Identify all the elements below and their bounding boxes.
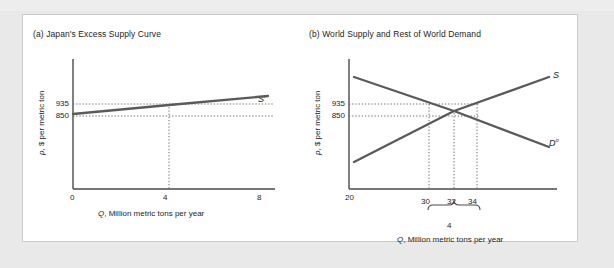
top-strip [0, 0, 614, 11]
panel-a-supply-curve [73, 96, 268, 114]
panel-a-plot [23, 15, 301, 243]
panel-b-brace [428, 200, 480, 210]
panel-world-supply-demand: (b) World Supply and Rest of World Deman… [301, 15, 579, 241]
figure-card: (a) Japan's Excess Supply Curve p, $ per… [22, 14, 578, 242]
panel-b-plot [301, 15, 579, 243]
panel-b-supply-curve [354, 77, 549, 162]
panel-japans-excess-supply: (a) Japan's Excess Supply Curve p, $ per… [23, 15, 301, 241]
